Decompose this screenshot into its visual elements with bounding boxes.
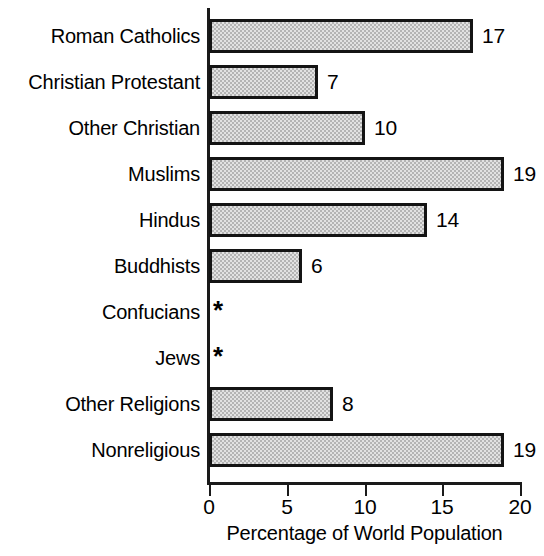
- x-axis-tick-label: 20: [490, 495, 544, 519]
- bar: [209, 249, 302, 283]
- bar: [209, 433, 504, 467]
- category-label: Jews: [155, 341, 200, 375]
- bar-row: Buddhists6: [0, 249, 544, 295]
- bar-row: Other Religions8: [0, 387, 544, 433]
- bar: [209, 111, 365, 145]
- x-axis-tick-label: 10: [335, 495, 395, 519]
- bar-row: Other Christian10: [0, 111, 544, 157]
- x-axis-tick-label: 0: [179, 495, 239, 519]
- bar: [209, 19, 473, 53]
- category-label: Christian Protestant: [28, 65, 200, 99]
- bar-row: Roman Catholics17: [0, 19, 544, 65]
- category-label: Muslims: [128, 157, 200, 191]
- bar-value-label: 19: [513, 433, 536, 467]
- category-label: Confucians: [102, 295, 200, 329]
- bar-value-label: 8: [342, 387, 353, 421]
- bar: [209, 65, 318, 99]
- x-axis-title: Percentage of World Population: [209, 521, 520, 545]
- bar-row: Muslims19: [0, 157, 544, 203]
- bar-value-label: 7: [327, 65, 338, 99]
- bar: [209, 387, 333, 421]
- category-label: Hindus: [139, 203, 200, 237]
- category-label: Roman Catholics: [51, 19, 200, 53]
- bar-chart: Roman Catholics17Christian Protestant7Ot…: [0, 0, 544, 556]
- bar: [209, 157, 504, 191]
- x-axis-tick-label: 5: [257, 495, 317, 519]
- bar-value-label: 14: [436, 203, 459, 237]
- bar-row: Hindus14: [0, 203, 544, 249]
- bar-row: Christian Protestant7: [0, 65, 544, 111]
- category-label: Other Christian: [69, 111, 201, 145]
- bar-row: Nonreligious19: [0, 433, 544, 479]
- bar: [209, 203, 427, 237]
- no-data-asterisk: *: [213, 295, 223, 329]
- category-label: Buddhists: [114, 249, 200, 283]
- category-label: Nonreligious: [91, 433, 200, 467]
- x-axis-tick-label: 15: [412, 495, 472, 519]
- bar-value-label: 17: [482, 19, 505, 53]
- bar-row: Confucians*: [0, 295, 544, 341]
- bar-value-label: 6: [311, 249, 322, 283]
- no-data-asterisk: *: [213, 341, 223, 375]
- category-label: Other Religions: [65, 387, 200, 421]
- bar-value-label: 19: [513, 157, 536, 191]
- bar-value-label: 10: [374, 111, 397, 145]
- bar-row: Jews*: [0, 341, 544, 387]
